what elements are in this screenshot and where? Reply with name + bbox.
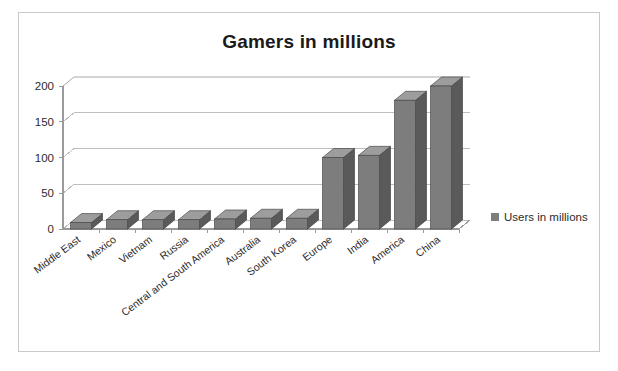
bar-south-korea (287, 218, 308, 229)
bar-middle-east (71, 223, 92, 229)
bar-australia (251, 218, 272, 229)
svg-text:150: 150 (35, 116, 54, 128)
chart-frame: Gamers in millions 200150100500 Middle E… (18, 12, 600, 352)
legend-label: Users in millions (504, 211, 588, 223)
legend-swatch-icon (491, 213, 499, 221)
bar-america (395, 100, 416, 229)
chart-plot-area: 200150100500 Middle EastMexicoVietnamRus… (19, 13, 601, 353)
svg-text:0: 0 (48, 223, 54, 235)
svg-text:100: 100 (35, 152, 54, 164)
bar-side (343, 149, 354, 230)
category-label: India (345, 233, 371, 256)
svg-text:50: 50 (41, 187, 54, 199)
bar-india (359, 155, 380, 229)
svg-text:200: 200 (35, 80, 54, 92)
bar-europe (323, 158, 344, 230)
bar-mexico (107, 220, 128, 229)
bar-central-and-south-america (215, 219, 236, 229)
chart-legend: Users in millions (491, 211, 588, 223)
bar-side (379, 146, 390, 229)
category-label: China (413, 233, 442, 259)
bars-group (71, 77, 463, 229)
bar-vietnam (143, 220, 164, 229)
y-axis-tick-labels: 200150100500 (35, 80, 54, 235)
category-label: Mexico (84, 233, 118, 263)
category-label: Middle East (31, 233, 82, 276)
category-label: Vietnam (116, 233, 154, 266)
bar-side (415, 91, 426, 229)
x-axis-category-labels: Middle EastMexicoVietnamRussiaCentral an… (31, 233, 442, 318)
category-label: America (368, 233, 406, 266)
bar-russia (179, 220, 200, 229)
category-label: Europe (300, 233, 334, 263)
bar-side (451, 77, 462, 229)
bar-china (431, 86, 452, 229)
